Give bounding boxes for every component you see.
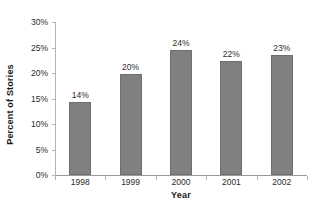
x-axis-tick-label: 1999 — [121, 177, 140, 187]
y-axis-tick-labels: 0%5%10%15%20%25%30% — [20, 0, 48, 209]
y-axis-title: Percent of Stories — [2, 0, 18, 209]
x-axis-title: Year — [55, 190, 307, 200]
bar — [220, 61, 242, 175]
bar — [69, 102, 91, 175]
y-axis-tick-mark — [52, 22, 56, 23]
bar-group: 20% — [105, 22, 155, 175]
x-axis-line — [55, 175, 307, 176]
y-axis-tick-label: 30% — [22, 17, 48, 27]
x-axis-tick-label: 2001 — [222, 177, 241, 187]
y-axis-tick-mark — [52, 124, 56, 125]
bar-group: 14% — [55, 22, 105, 175]
bar — [271, 55, 293, 175]
bar-value-label: 22% — [223, 49, 240, 59]
y-axis-tick-mark — [52, 48, 56, 49]
x-axis-tick-mark — [307, 176, 308, 180]
x-axis-tick-label: 2000 — [172, 177, 191, 187]
bar — [120, 74, 142, 175]
x-axis-tick-label: 1998 — [71, 177, 90, 187]
y-axis-tick-label: 15% — [22, 94, 48, 104]
bar-chart: Percent of Stories 0%5%10%15%20%25%30% 1… — [0, 0, 316, 209]
y-axis-tick-mark — [52, 150, 56, 151]
bar-group: 22% — [206, 22, 256, 175]
x-axis-tick-labels: 19981999200020012002 — [55, 177, 307, 190]
bar-group: 23% — [257, 22, 307, 175]
bars-layer: 14%20%24%22%23% — [55, 22, 307, 175]
x-axis-tick-label: 2002 — [272, 177, 291, 187]
plot-area: 14%20%24%22%23% — [55, 22, 307, 175]
y-axis-tick-mark — [52, 99, 56, 100]
y-axis-tick-label: 20% — [22, 68, 48, 78]
bar-group: 24% — [156, 22, 206, 175]
bar-value-label: 20% — [122, 62, 139, 72]
y-axis-tick-label: 25% — [22, 43, 48, 53]
bar-value-label: 14% — [72, 90, 89, 100]
bar — [170, 50, 192, 175]
y-axis-tick-label: 5% — [22, 145, 48, 155]
y-axis-tick-label: 10% — [22, 119, 48, 129]
y-axis-tick-mark — [52, 73, 56, 74]
bar-value-label: 24% — [172, 38, 189, 48]
y-axis-tick-label: 0% — [22, 170, 48, 180]
bar-value-label: 23% — [273, 43, 290, 53]
